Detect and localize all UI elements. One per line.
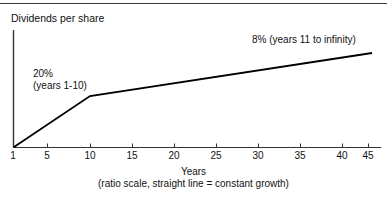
x-tick-label-35: 35 (294, 150, 305, 162)
x-tick-label-25: 25 (210, 150, 221, 162)
x-tick-label-40: 40 (336, 150, 347, 162)
x-tick-label-30: 30 (252, 150, 263, 162)
annotation-period-1-10: (years 1-10) (33, 80, 87, 92)
x-axis-title: Years (0, 166, 387, 178)
annotation-rate-8: 8% (years 11 to infinity) (252, 34, 356, 46)
annotation-rate-20: 20% (33, 68, 87, 80)
x-tick-label-1: 1 (10, 150, 16, 162)
x-axis-subtitle: (ratio scale, straight line = constant g… (0, 178, 387, 190)
x-tick-label-20: 20 (168, 150, 179, 162)
x-tick-label-45: 45 (362, 150, 373, 162)
x-tick-label-15: 15 (126, 150, 137, 162)
annotation-growth-phase-1: 20% (years 1-10) (33, 68, 87, 92)
x-tick-label-10: 10 (84, 150, 95, 162)
chart-figure: Dividends per share 20% (years 1-10) 8% … (0, 0, 387, 200)
x-tick-label-5: 5 (44, 150, 50, 162)
annotation-growth-phase-2: 8% (years 11 to infinity) (252, 34, 356, 46)
